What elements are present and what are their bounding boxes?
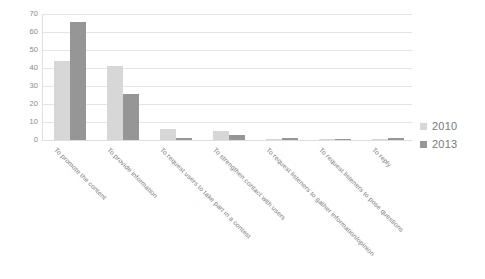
bar-group bbox=[201, 14, 254, 140]
bar-2013[interactable] bbox=[176, 138, 192, 140]
bars-layer bbox=[42, 14, 412, 140]
bar-group bbox=[42, 14, 95, 140]
y-tick-label-10: 10 bbox=[4, 118, 38, 126]
legend-label-2013: 2013 bbox=[432, 138, 457, 150]
legend-swatch-2010 bbox=[420, 123, 427, 130]
y-tick-label-0: 0 bbox=[4, 136, 38, 144]
bar-2010[interactable] bbox=[213, 131, 229, 140]
bar-2010[interactable] bbox=[160, 129, 176, 140]
x-tick-label: To promote the content bbox=[53, 146, 109, 202]
bar-group bbox=[148, 14, 201, 140]
bar-2013[interactable] bbox=[388, 138, 404, 140]
x-tick-label: To provide information bbox=[106, 146, 160, 200]
bar-2013[interactable] bbox=[70, 22, 86, 140]
bar-chart: 010203040506070 To promote the contentTo… bbox=[0, 0, 485, 279]
legend-item-2010[interactable]: 2010 bbox=[420, 117, 482, 135]
bar-2010[interactable] bbox=[54, 61, 70, 140]
y-tick-label-40: 40 bbox=[4, 64, 38, 72]
bar-2013[interactable] bbox=[335, 139, 351, 140]
y-tick-label-70: 70 bbox=[4, 10, 38, 18]
bar-group bbox=[359, 14, 412, 140]
legend-swatch-2013 bbox=[420, 141, 427, 148]
plot-area bbox=[42, 14, 412, 140]
chart-legend: 2010 2013 bbox=[420, 117, 482, 153]
bar-2010[interactable] bbox=[266, 139, 282, 140]
x-tick-label: To request listeners to pose questions bbox=[317, 146, 405, 234]
legend-item-2013[interactable]: 2013 bbox=[420, 135, 482, 153]
x-tick-label: To request listeners to gather informati… bbox=[264, 146, 376, 258]
y-tick-label-50: 50 bbox=[4, 46, 38, 54]
x-tick-label: To reply bbox=[370, 146, 393, 169]
bar-2013[interactable] bbox=[229, 135, 245, 140]
y-tick-label-30: 30 bbox=[4, 82, 38, 90]
bar-2010[interactable] bbox=[107, 66, 123, 140]
bar-group bbox=[95, 14, 148, 140]
x-tick-label: To request users to take part in a conte… bbox=[158, 146, 252, 240]
y-tick-label-20: 20 bbox=[4, 100, 38, 108]
y-tick-label-60: 60 bbox=[4, 28, 38, 36]
x-tick-label: To strengthen contact with users bbox=[211, 146, 287, 222]
y-axis: 010203040506070 bbox=[0, 14, 38, 140]
bar-group bbox=[253, 14, 306, 140]
legend-label-2010: 2010 bbox=[432, 120, 457, 132]
bar-2010[interactable] bbox=[372, 139, 388, 140]
bar-2010[interactable] bbox=[319, 139, 335, 140]
bar-group bbox=[306, 14, 359, 140]
bar-2013[interactable] bbox=[123, 94, 139, 140]
bar-2013[interactable] bbox=[282, 138, 298, 140]
gridline-0 bbox=[42, 140, 412, 141]
